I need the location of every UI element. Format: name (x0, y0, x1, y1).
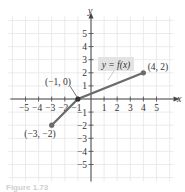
function-label-leader (108, 71, 114, 80)
y-tick-label: 3 (82, 55, 87, 65)
x-tick-label: −4 (32, 103, 42, 113)
figure-caption: Figure 1.73 (6, 183, 48, 192)
y-tick-label: −1 (77, 108, 87, 118)
x-tick-label: 5 (154, 103, 159, 113)
y-tick-label: 1 (82, 81, 87, 91)
x-tick-label: 1 (102, 103, 107, 113)
function-label: y = f(x) (98, 57, 134, 80)
y-tick-label: −3 (77, 134, 87, 144)
axes (10, 12, 179, 181)
x-tick-label: 4 (141, 103, 146, 113)
x-axis-label: x (176, 93, 182, 104)
y-tick-label: 4 (82, 42, 87, 52)
y-tick-label: −4 (77, 147, 87, 157)
y-tick-label: −5 (77, 160, 87, 170)
x-tick-label: 2 (115, 103, 120, 113)
x-tick-label: −3 (45, 103, 55, 113)
y-axis-label: y (87, 5, 93, 16)
y-tick-label: 5 (82, 29, 87, 39)
x-tick-label: 3 (128, 103, 133, 113)
y-tick-label: −2 (77, 121, 87, 131)
data-point (75, 96, 80, 101)
point-label-b: (−1, 0) (45, 77, 71, 88)
data-point (141, 70, 146, 75)
y-tick-label: 2 (82, 68, 87, 78)
function-label-text: y = f(x) (101, 60, 131, 71)
x-tick-label: −5 (19, 103, 29, 113)
point-label-c: (4, 2) (148, 62, 169, 73)
point-label-a: (−3, −2) (24, 129, 55, 140)
data-point (49, 123, 54, 128)
x-tick-label: −2 (58, 103, 68, 113)
point-b-leader (70, 86, 77, 97)
function-graph: −5−4−3−2−112345−5−4−3−2−112345 y = f(x) … (0, 0, 185, 192)
